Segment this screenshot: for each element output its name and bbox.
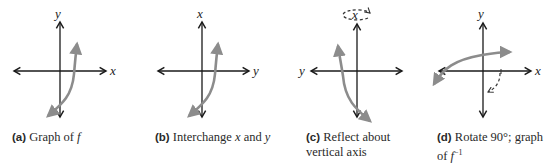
function-curve — [189, 44, 218, 116]
caption-line-1: (c) Reflect about — [306, 130, 390, 145]
caption-line-2: of f−1 — [437, 145, 543, 164]
horizontal-axis-label: x — [534, 63, 541, 78]
caption-d: (d) Rotate 90°; graph of f−1 — [437, 130, 543, 164]
caption-text: and — [241, 130, 265, 144]
vertical-axis-label: x — [196, 6, 203, 21]
caption-a: (a) Graph of f — [12, 130, 81, 145]
function-curve — [48, 44, 77, 116]
horizontal-axis-label: x — [109, 63, 116, 78]
caption-superscript: −1 — [454, 148, 463, 157]
panel-a: y x — [14, 6, 116, 117]
caption-tag: (d) — [437, 131, 452, 143]
caption-text: Graph of — [29, 130, 77, 144]
caption-func: f — [77, 130, 80, 144]
panel-b: x y — [158, 6, 259, 117]
caption-c: (c) Reflect about vertical axis — [306, 130, 390, 160]
caption-line-2: vertical axis — [306, 145, 390, 160]
inverse-curve — [434, 52, 510, 84]
caption-tag: (b) — [155, 131, 170, 143]
horizontal-axis-label: y — [297, 63, 305, 78]
caption-text: of — [437, 149, 451, 163]
caption-text: Rotate 90°; graph — [455, 130, 543, 144]
caption-tag: (a) — [12, 131, 26, 143]
caption-tag: (c) — [306, 131, 320, 143]
rotation-arc-icon — [488, 73, 500, 92]
caption-text: Interchange — [173, 130, 235, 144]
reflected-curve — [338, 46, 370, 121]
vertical-axis-label: y — [476, 6, 484, 21]
panel-d: y x — [434, 6, 541, 117]
vertical-axis-label: y — [53, 6, 61, 21]
caption-text: Reflect about — [323, 130, 390, 144]
caption-line-1: (d) Rotate 90°; graph — [437, 130, 543, 145]
horizontal-axis-label: y — [251, 63, 259, 78]
caption-b: (b) Interchange x and y — [155, 130, 270, 145]
panel-c: x y — [297, 7, 402, 121]
caption-var-y: y — [265, 130, 271, 144]
